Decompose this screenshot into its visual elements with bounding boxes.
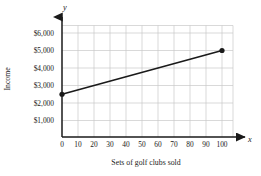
- y-tick-label-1000: $1,000: [14, 117, 54, 124]
- y-tick-label-3000: $3,000: [14, 82, 54, 89]
- x-tick-label-100: 100: [212, 141, 232, 148]
- data-point-end: [219, 48, 224, 53]
- y-tick-label-2000: $2,000: [14, 100, 54, 107]
- x-axis-title: Sets of golf clubs sold: [62, 159, 230, 167]
- y-tick-label-6000: $6,000: [14, 30, 54, 37]
- y-axis-variable-label: y: [63, 4, 67, 12]
- grid-horizontal: [62, 33, 233, 121]
- y-tick-label-4000: $4,000: [14, 65, 54, 72]
- y-tick-label-5000: $5,000: [14, 47, 54, 54]
- x-axis-variable-label: x: [248, 136, 252, 144]
- y-axis-title: Income: [4, 57, 12, 101]
- data-point-start: [59, 92, 64, 97]
- line-chart: $6,000 $5,000 $4,000 $3,000 $2,000 $1,00…: [0, 0, 261, 176]
